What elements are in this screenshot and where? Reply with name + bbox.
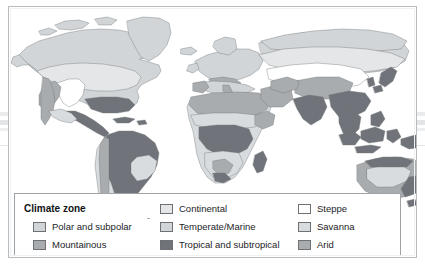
legend-label-tropical: Tropical and subtropical [179, 240, 280, 250]
legend-title: Climate zone [24, 203, 86, 214]
swatch-steppe [298, 204, 311, 214]
indonesia-java [355, 145, 381, 153]
swatch-continental [160, 204, 173, 214]
canadian-arctic-islands [55, 20, 89, 30]
swatch-temperate [160, 222, 173, 232]
legend-item-savanna[interactable]: Savanna [298, 220, 355, 234]
zone-savanna-brazil [131, 155, 157, 181]
pacific-speck [104, 138, 105, 139]
indonesia-borneo [361, 127, 385, 143]
legend-label-arid: Arid [317, 240, 334, 250]
swatch-tropical [160, 240, 173, 250]
legend-label-continental: Continental [179, 204, 227, 214]
climate-zone-figure: Climate zone - Polar and subpolar Mounta… [0, 0, 425, 272]
map-frame: Climate zone - Polar and subpolar Mounta… [8, 6, 417, 258]
legend-item-temperate[interactable]: Temperate/Marine [160, 220, 256, 234]
korea [367, 77, 375, 87]
tasmania [407, 199, 416, 207]
legend: Climate zone - Polar and subpolar Mounta… [14, 193, 401, 256]
legend-stray-mark: - [147, 213, 150, 223]
zone-tropical-australia-north [365, 157, 413, 167]
arctic-island-b [95, 17, 117, 25]
caribbean-island-small [137, 120, 147, 125]
legend-item-arid[interactable]: Arid [298, 238, 334, 252]
madagascar [253, 151, 267, 173]
philippines [371, 111, 385, 127]
legend-item-polar[interactable]: Polar and subpolar [33, 220, 132, 234]
zone-tropical-southeast-usa [85, 97, 135, 113]
swatch-savanna [298, 222, 311, 232]
legend-label-savanna: Savanna [317, 222, 355, 232]
legend-label-polar: Polar and subpolar [52, 222, 132, 232]
caribbean-islands [113, 117, 135, 123]
british-isles [187, 63, 199, 73]
swatch-mountainous [33, 240, 46, 250]
japan-south [373, 85, 383, 93]
legend-label-mountainous: Mountainous [52, 240, 106, 250]
zone-steppe-great-plains [57, 79, 85, 107]
legend-item-mountainous[interactable]: Mountainous [33, 238, 106, 252]
zone-tropical-india [293, 95, 327, 125]
legend-item-tropical[interactable]: Tropical and subtropical [160, 238, 280, 252]
legend-label-steppe: Steppe [317, 204, 347, 214]
arctic-island-c [39, 28, 57, 35]
swatch-polar [33, 222, 46, 232]
legend-item-continental[interactable]: Continental [160, 202, 227, 216]
swatch-arid [298, 240, 311, 250]
indonesia-sumatra [339, 131, 361, 145]
legend-label-temperate: Temperate/Marine [179, 222, 256, 232]
iceland [181, 47, 197, 55]
indonesia-sulawesi [387, 129, 401, 143]
new-guinea [401, 135, 416, 149]
legend-item-steppe[interactable]: Steppe [298, 202, 347, 216]
